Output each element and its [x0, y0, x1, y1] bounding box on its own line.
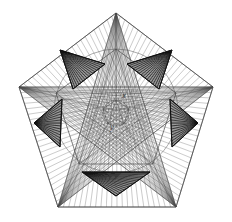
- label-x: x: [121, 91, 126, 100]
- geometric-figure-canvas: xy: [0, 0, 232, 222]
- pentagon-construction-svg: xy: [0, 0, 232, 222]
- label-y: y: [109, 123, 114, 132]
